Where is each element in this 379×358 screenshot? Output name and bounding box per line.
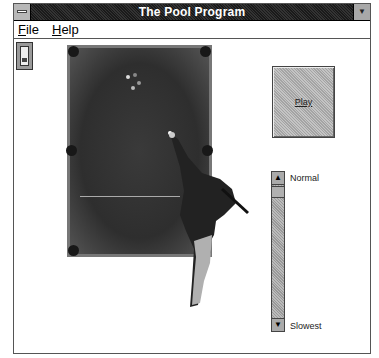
pocket-icon [68,46,79,57]
menu-file[interactable]: File [18,22,39,37]
ball [133,73,137,77]
speed-normal-label: Normal [290,173,319,183]
pocket-icon [200,46,211,57]
title-bar[interactable]: The Pool Program ▼ [14,4,370,21]
speed-slowest-label: Slowest [290,321,322,331]
ball [137,81,141,85]
speed-scrollbar[interactable]: ▲ ▼ [271,171,285,332]
menu-help[interactable]: Help [52,22,79,37]
light-switch-icon [20,46,29,66]
minimize-button[interactable]: ▼ [353,4,370,20]
head-string-line [80,196,180,197]
pocket-icon [66,145,77,156]
play-button[interactable]: Play [272,66,335,138]
menu-bar: File Help [14,21,370,39]
pocket-icon [68,245,79,256]
ball [126,75,130,79]
scroll-thumb[interactable] [272,186,284,198]
scroll-up-arrow-icon[interactable]: ▲ [272,172,284,185]
pool-player-image [166,131,256,309]
scroll-down-arrow-icon[interactable]: ▼ [272,318,284,331]
main-window: The Pool Program ▼ File Help [13,3,371,354]
window-title: The Pool Program [14,5,370,19]
ball [131,86,135,90]
client-area: Play ▲ ▼ Normal Slowest [14,39,370,353]
power-switch-button[interactable] [16,42,33,70]
